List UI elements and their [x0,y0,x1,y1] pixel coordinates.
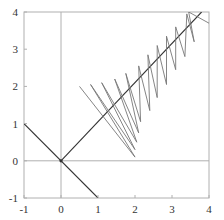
y-tick-label: 3 [13,43,19,55]
y-tick-label: 2 [13,80,19,92]
data-series [24,12,209,198]
x-tick-label: 3 [169,203,175,215]
x-tick-label: 4 [206,203,212,215]
plot-border [24,12,209,198]
zigzag-series [80,12,210,157]
x-tick-label: 2 [132,203,138,215]
origin-point [59,159,62,162]
y-tick-label: 1 [13,118,19,130]
reference-axes [24,12,209,198]
y-tick-label: -1 [9,192,18,204]
y-tick-label: 4 [13,6,19,18]
x-tick-label: -1 [19,203,28,215]
x-tick-label: 1 [95,203,101,215]
y-tick-label: 0 [13,155,19,167]
x-tick-label: 0 [58,203,64,215]
line-diagonal-series [61,12,202,161]
chart: -101234 -101234 [0,0,224,220]
plot-frame [24,12,209,198]
